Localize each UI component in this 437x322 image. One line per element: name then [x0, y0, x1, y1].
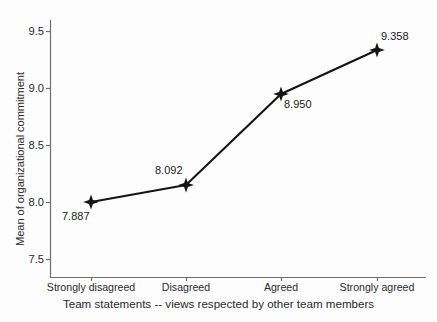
x-tick-label: Strongly disagreed	[47, 281, 135, 293]
x-tick-label: Disagreed	[162, 281, 210, 293]
x-tick-label: Strongly agreed	[340, 281, 415, 293]
data-point-label: 8.092	[155, 164, 183, 176]
data-point-label: 7.887	[62, 210, 90, 222]
x-axis-title: Team statements -- views respected by ot…	[0, 297, 437, 310]
plot-area	[0, 0, 437, 322]
data-point-label: 8.950	[284, 98, 312, 110]
data-point-label: 9.358	[381, 30, 409, 42]
y-axis-ticks	[46, 32, 50, 260]
data-line	[91, 50, 377, 202]
data-point-marker	[83, 194, 99, 209]
x-axis-tick-labels: Strongly disagreed Disagreed Agreed Stro…	[0, 281, 437, 297]
chart-figure: Mean of organizational commitment 9.5 9.…	[0, 0, 437, 322]
x-tick-label: Agreed	[264, 281, 298, 293]
data-point-marker	[369, 42, 385, 57]
